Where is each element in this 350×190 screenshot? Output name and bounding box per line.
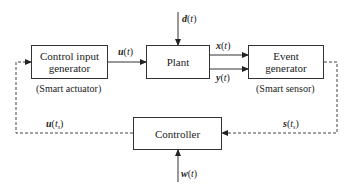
smart-sensor-caption: (Smart sensor): [256, 83, 315, 94]
plant-block: Plant: [146, 45, 210, 79]
event-generator-line2: generator: [265, 62, 307, 74]
event-generator-line1: Event: [273, 50, 299, 62]
state-label: x(t): [216, 40, 230, 51]
plant-label: Plant: [167, 56, 190, 68]
controller-block: Controller: [133, 117, 222, 150]
smart-actuator-caption: (Smart actuator): [36, 83, 101, 94]
sampled-signal-label: s(ts): [283, 118, 299, 130]
event-generator-block: Eventgenerator: [248, 45, 324, 79]
control-input-generator-line2: generator: [49, 62, 91, 74]
output-label: y(t): [216, 72, 230, 83]
reference-label: w(t): [181, 168, 197, 179]
control-input-label: u(t): [118, 46, 133, 57]
control-input-generator-line1: Control input: [40, 50, 99, 62]
connection-lines: [0, 0, 350, 190]
sampled-control-label: u(ts): [46, 118, 63, 130]
disturbance-label: d(t): [182, 13, 196, 24]
control-input-generator-block: Control inputgenerator: [31, 45, 108, 79]
controller-label: Controller: [155, 128, 200, 140]
